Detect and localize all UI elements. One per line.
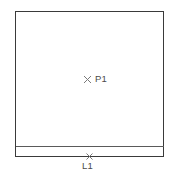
drawing-canvas: P1 L1 bbox=[0, 0, 176, 191]
line-l1-label: L1 bbox=[82, 161, 93, 171]
point-p1-label: P1 bbox=[95, 74, 107, 84]
main-rectangle[interactable] bbox=[16, 12, 164, 157]
point-p1-marker[interactable] bbox=[84, 76, 91, 83]
